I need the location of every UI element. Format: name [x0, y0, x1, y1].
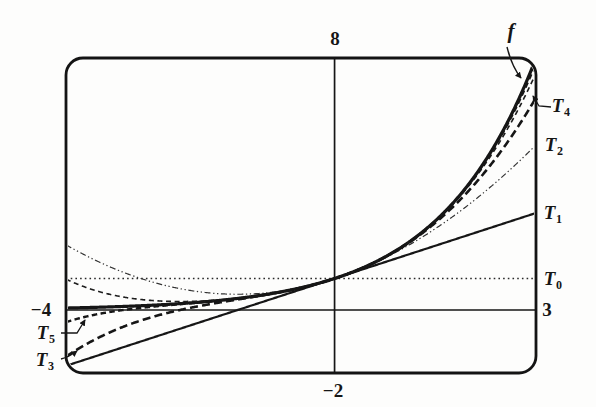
window-label-top: 8	[330, 29, 340, 48]
window-label-bottom: −2	[323, 381, 344, 400]
curve-label-t1: T1	[544, 203, 563, 225]
curve-label-f: f	[507, 21, 514, 42]
curve-f	[66, 58, 536, 308]
plot-canvas	[0, 0, 596, 407]
curve-label-t3-text: T	[36, 349, 48, 370]
window-label-left: −4	[31, 300, 52, 319]
curve-label-t1-text: T	[544, 202, 556, 223]
axes-group	[66, 58, 536, 373]
curve-label-t5: T5	[37, 323, 56, 345]
curve-label-t1-subscript: 1	[556, 212, 562, 226]
viewing-window-frame	[66, 58, 536, 373]
curve-label-t2-subscript: 2	[557, 144, 563, 158]
curves-group	[66, 58, 536, 366]
f-label-arrow	[507, 47, 521, 78]
curve-label-f-text: f	[507, 19, 514, 43]
curve-label-t3: T3	[36, 350, 55, 372]
curve-label-t4-text: T	[552, 95, 564, 116]
curve-label-t5-text: T	[37, 322, 49, 343]
curve-label-t3-subscript: 3	[48, 359, 54, 373]
curve-label-t2: T2	[545, 135, 564, 157]
curve-label-t5-subscript: 5	[49, 332, 55, 346]
curve-t1	[66, 213, 536, 366]
curve-label-t4-subscript: 4	[564, 105, 570, 119]
curve-label-t0-text: T	[544, 268, 556, 289]
curve-label-t2-text: T	[545, 134, 557, 155]
window-label-right: 3	[542, 300, 552, 319]
curve-label-t0: T0	[544, 269, 563, 291]
curve-label-t0-subscript: 0	[556, 278, 562, 292]
taylor-polynomial-figure: 8 −2 −4 3 f T4 T2 T1 T0 T5 T3	[0, 0, 596, 407]
curve-t2	[66, 145, 536, 294]
curve-label-t4: T4	[552, 96, 571, 118]
curve-t3	[66, 98, 536, 357]
